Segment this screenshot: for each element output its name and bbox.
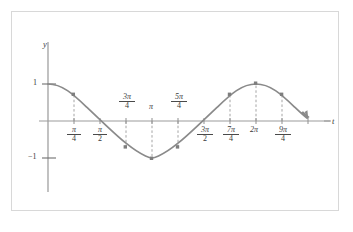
x-tick-label-5pi-4: 5π 4: [171, 93, 187, 111]
x-tick-label-pi-4-den: 4: [67, 134, 81, 143]
x-tick-label-7pi-4-den: 4: [223, 134, 239, 143]
x-tick-label-3pi-2-num: 3π: [197, 126, 213, 134]
y-tick-label-minus1: −1: [28, 153, 37, 161]
point-pi: [150, 157, 153, 160]
x-axis-label: t: [332, 117, 334, 126]
x-tick-label-3pi-4: 3π 4: [119, 93, 135, 111]
point-3pi-4: [124, 145, 127, 148]
x-tick-label-9pi-4-num: 9π: [275, 126, 291, 134]
y-tick-label-1: 1: [33, 79, 37, 87]
x-tick-label-9pi-4: 9π 4: [275, 126, 291, 144]
x-tick-label-5pi-4-num: 5π: [171, 93, 187, 101]
x-tick-label-3pi-2: 3π 2: [197, 126, 213, 144]
x-tick-label-pi-4-num: π: [67, 126, 81, 134]
point-pi-4: [72, 93, 75, 96]
x-tick-label-pi-2-num: π: [93, 126, 107, 134]
x-tick-label-3pi-2-den: 2: [197, 134, 213, 143]
x-tick-label-7pi-4-num: 7π: [223, 126, 239, 134]
y-axis-label: y: [43, 40, 47, 49]
x-tick-label-pi-4: π 4: [67, 126, 81, 144]
x-tick-label-pi: π: [149, 103, 153, 111]
point-5pi-4: [176, 145, 179, 148]
x-tick-label-5pi-4-den: 4: [171, 101, 187, 110]
figure-canvas: y t 1 −1 π 4 π 2 3π 4 π 5π 4 3π 2 7π 4 2…: [0, 0, 353, 232]
x-tick-label-pi-2: π 2: [93, 126, 107, 144]
point-9pi-4: [280, 93, 283, 96]
x-tick-label-pi-2-den: 2: [93, 134, 107, 143]
x-tick-label-7pi-4: 7π 4: [223, 126, 239, 144]
cosine-plot: [0, 0, 353, 232]
point-7pi-4: [228, 93, 231, 96]
x-tick-label-3pi-4-num: 3π: [119, 93, 135, 101]
x-tick-label-2pi: 2π: [250, 126, 258, 134]
x-tick-label-9pi-4-den: 4: [275, 134, 291, 143]
point-2pi: [254, 82, 257, 85]
x-tick-label-3pi-4-den: 4: [119, 101, 135, 110]
